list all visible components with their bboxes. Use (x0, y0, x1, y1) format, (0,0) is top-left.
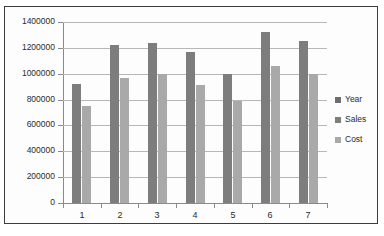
chart-frame: 0200000400000600000800000100000012000001… (4, 6, 378, 224)
y-axis-labels: 0200000400000600000800000100000012000001… (5, 7, 55, 223)
legend-item-label: Year (345, 95, 362, 104)
bar (186, 52, 195, 203)
gridline (63, 177, 327, 178)
y-axis-tick-label: 1400000 (22, 17, 55, 26)
legend-item[interactable]: Sales (335, 115, 381, 124)
bar (120, 78, 129, 203)
gridline (63, 151, 327, 152)
y-axis-tick-label: 800000 (27, 95, 55, 104)
bar (148, 43, 157, 203)
bar (158, 74, 167, 203)
x-axis-tick-mark (214, 204, 215, 208)
bar (271, 66, 280, 203)
y-axis-tick-label: 400000 (27, 146, 55, 155)
gridline (63, 74, 327, 75)
bar (299, 41, 308, 203)
y-axis-tick-label: 0 (50, 198, 55, 207)
x-axis-tick-label: 1 (72, 210, 92, 220)
x-axis-tick-label: 3 (147, 210, 167, 220)
bar (110, 45, 119, 203)
bar (261, 32, 270, 203)
chart-screenshot: 0200000400000600000800000100000012000001… (0, 0, 384, 236)
y-axis-tick-label: 1000000 (22, 69, 55, 78)
y-axis-tick-label: 1200000 (22, 43, 55, 52)
x-axis-tick-mark (138, 204, 139, 208)
x-axis-tick-mark (327, 204, 328, 208)
legend-item[interactable]: Cost (335, 135, 381, 144)
x-axis-tick-label: 5 (223, 210, 243, 220)
legend-item-label: Cost (345, 135, 362, 144)
y-axis-tick-label: 200000 (27, 172, 55, 181)
x-axis-tick-mark (252, 204, 253, 208)
legend-item-label: Sales (345, 115, 366, 124)
bar (309, 74, 318, 203)
legend-swatch-icon (335, 117, 341, 123)
x-axis-tick-label: 4 (185, 210, 205, 220)
bar (233, 101, 242, 203)
bar (72, 84, 81, 203)
x-axis-tick-mark (101, 204, 102, 208)
legend-swatch-icon (335, 137, 341, 143)
chart-legend: YearSalesCost (335, 95, 381, 155)
gridline (63, 100, 327, 101)
x-axis-tick-mark (176, 204, 177, 208)
bar (223, 74, 232, 203)
x-axis-tick-label: 2 (110, 210, 130, 220)
bar (196, 85, 205, 203)
y-axis-tick-label: 600000 (27, 120, 55, 129)
x-axis-tick-label: 7 (298, 210, 318, 220)
plot-area (63, 22, 327, 203)
legend-item[interactable]: Year (335, 95, 381, 104)
gridline (63, 125, 327, 126)
x-axis-tick-label: 6 (260, 210, 280, 220)
gridline (63, 48, 327, 49)
legend-swatch-icon (335, 97, 341, 103)
bar (82, 106, 91, 203)
x-axis-tick-mark (63, 204, 64, 208)
gridline (63, 22, 327, 23)
x-axis-tick-mark (289, 204, 290, 208)
